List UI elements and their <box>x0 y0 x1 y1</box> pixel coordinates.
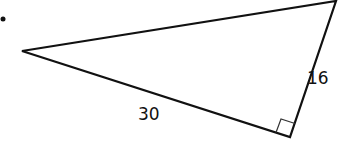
side-label-right: 16 <box>307 68 329 88</box>
bullet-dot <box>1 17 6 22</box>
triangle <box>22 1 336 137</box>
triangle-diagram: 16 30 <box>0 0 346 148</box>
side-label-bottom: 30 <box>138 104 160 124</box>
